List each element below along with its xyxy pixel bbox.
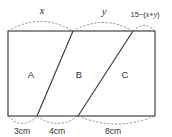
top-label-remainder: 15−(x+y) <box>130 10 160 19</box>
top-label-y: y <box>101 6 107 17</box>
region-label-a: A <box>28 69 35 80</box>
bottom-arc-3cm <box>8 116 37 124</box>
geometry-figure: A B C x y 15−(x+y) 3cm 4cm 8cm <box>0 0 172 137</box>
expr-close-paren: ) <box>157 10 160 19</box>
region-label-b: B <box>76 69 82 80</box>
bottom-arc-4cm <box>37 116 78 124</box>
bottom-label-4cm: 4cm <box>49 126 65 136</box>
top-arc-remainder <box>133 26 155 32</box>
top-arc-y <box>73 23 133 32</box>
region-label-c: C <box>122 69 129 80</box>
bottom-label-3cm: 3cm <box>14 126 30 136</box>
top-arc-x <box>8 22 73 32</box>
bottom-arc-8cm <box>78 116 155 124</box>
expr-prefix: 15 <box>130 10 138 19</box>
figure-canvas: A B C x y 15−(x+y) 3cm 4cm 8cm <box>0 0 172 137</box>
bottom-label-8cm: 8cm <box>105 126 121 136</box>
top-label-x: x <box>39 5 45 16</box>
